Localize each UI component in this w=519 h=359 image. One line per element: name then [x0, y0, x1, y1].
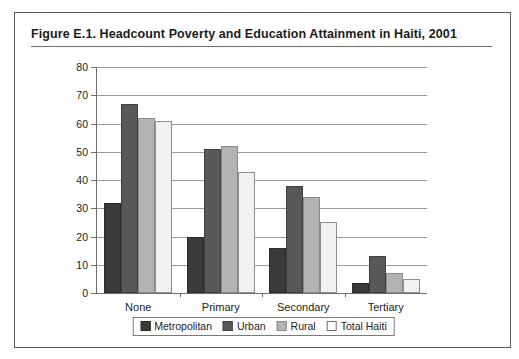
bar-set — [262, 67, 345, 293]
bar — [369, 256, 386, 293]
legend-item: Total Haiti — [327, 320, 387, 332]
legend-label: Total Haiti — [341, 320, 387, 332]
bar — [221, 146, 238, 293]
y-axis-tick-label: 30 — [76, 202, 88, 214]
legend-item: Metropolitan — [140, 320, 212, 332]
x-axis-tick — [345, 293, 346, 297]
bar — [204, 149, 221, 293]
y-axis-tick — [91, 152, 96, 153]
x-axis-tick — [262, 293, 263, 297]
y-axis-tick — [91, 293, 96, 294]
y-axis-tick-label: 60 — [76, 118, 88, 130]
bar — [352, 283, 369, 293]
legend-label: Rural — [291, 320, 316, 332]
bar — [303, 197, 320, 293]
bar-group — [180, 67, 263, 293]
bar — [386, 273, 403, 293]
y-axis-tick — [91, 265, 96, 266]
legend-label: Metropolitan — [154, 320, 212, 332]
bar — [286, 186, 303, 293]
legend-swatch-icon — [140, 321, 150, 331]
bar-group — [97, 67, 180, 293]
figure-frame: Figure E.1. Headcount Poverty and Educat… — [14, 12, 511, 348]
y-axis-tick-label: 50 — [76, 146, 88, 158]
plot-area: 01020304050607080 NonePrimarySecondaryTe… — [96, 67, 427, 294]
y-axis-tick-label: 0 — [82, 287, 88, 299]
x-axis-label: Primary — [202, 301, 240, 313]
y-axis-tick-label: 40 — [76, 174, 88, 186]
y-axis-tick — [91, 95, 96, 96]
y-axis-tick-label: 80 — [76, 61, 88, 73]
bar-group — [262, 67, 345, 293]
bar — [104, 203, 121, 293]
y-axis-tick — [91, 124, 96, 125]
y-axis-tick — [91, 208, 96, 209]
bar-set — [180, 67, 263, 293]
bar — [238, 172, 255, 293]
legend-swatch-icon — [223, 321, 233, 331]
legend-label: Urban — [237, 320, 266, 332]
bar — [403, 279, 420, 293]
y-axis-tick-label: 10 — [76, 259, 88, 271]
bar — [155, 121, 172, 293]
bar — [121, 104, 138, 293]
x-axis-label: Secondary — [277, 301, 330, 313]
chart-legend: MetropolitanUrbanRuralTotal Haiti — [132, 317, 395, 336]
bar-set — [345, 67, 428, 293]
bar-group — [345, 67, 428, 293]
legend-swatch-icon — [277, 321, 287, 331]
x-axis-tick — [180, 293, 181, 297]
y-axis-tick — [91, 180, 96, 181]
bar — [138, 118, 155, 293]
bar — [187, 237, 204, 294]
legend-item: Urban — [223, 320, 266, 332]
legend-item: Rural — [277, 320, 316, 332]
x-axis-label: None — [125, 301, 151, 313]
bar — [320, 222, 337, 293]
bar-set — [97, 67, 180, 293]
bar — [269, 248, 286, 293]
y-axis-tick — [91, 237, 96, 238]
x-axis-label: Tertiary — [368, 301, 404, 313]
y-axis-tick — [91, 67, 96, 68]
legend-swatch-icon — [327, 321, 337, 331]
y-axis-tick-label: 70 — [76, 89, 88, 101]
y-axis-tick-label: 20 — [76, 231, 88, 243]
chart-plot: 01020304050607080 NonePrimarySecondaryTe… — [15, 13, 512, 349]
